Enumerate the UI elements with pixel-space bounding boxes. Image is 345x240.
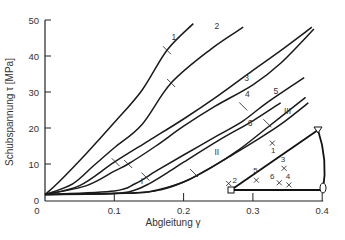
curve-label-4: 4 [245, 89, 250, 99]
inset-edge-arc [318, 130, 325, 190]
inset-marker-label: 3 [281, 155, 286, 164]
x-tick-label: 0 [34, 205, 39, 216]
x-tick-label: 0.2 [177, 205, 190, 216]
curve-II [45, 103, 308, 195]
curve-3 [45, 27, 312, 194]
x-tick-label: 0.4 [316, 205, 329, 216]
curve-2 [45, 27, 243, 194]
circle-marker-icon [320, 183, 326, 193]
cross-marker-icon [277, 180, 282, 185]
y-tick-label: 40 [28, 51, 39, 62]
x-axis-label: Abgleitung γ [145, 217, 200, 228]
x-tick-label: 0.1 [108, 205, 121, 216]
curves [45, 24, 314, 195]
curve-tick-mark [190, 169, 198, 177]
y-axis-label: Schubspannung τ [MPa] [4, 58, 15, 166]
stress-strain-chart: 0102030405000.10.20.30.4 123456IIIIII 12… [0, 0, 345, 240]
curve-label-5: 5 [273, 86, 278, 96]
inset-marker-label: 4 [286, 172, 291, 181]
curve-4 [45, 29, 314, 195]
curve-label-1: 1 [172, 32, 177, 42]
y-tick-label: 50 [28, 15, 39, 26]
curve-tick-mark [124, 160, 132, 168]
inset-triangle-diagram: 123456 [226, 127, 326, 193]
inset-marker-label: 6 [270, 172, 275, 181]
inset-marker-label: 1 [271, 146, 276, 155]
curve-label-III: III [284, 106, 291, 116]
inset-marker-label: 2 [232, 176, 237, 185]
curve-label-II: II [214, 147, 219, 157]
y-tick-label: 20 [28, 123, 39, 134]
cross-marker-icon [226, 181, 231, 186]
cross-marker-icon [286, 182, 291, 187]
x-tick-label: 0.3 [246, 205, 259, 216]
cross-marker-icon [254, 178, 259, 183]
curve-label-3: 3 [244, 73, 249, 83]
cross-marker-icon [270, 141, 275, 146]
curve-tick-mark [239, 102, 247, 110]
curve-label-2: 2 [214, 21, 219, 31]
inset-marker-label: 5 [253, 166, 258, 175]
y-tick-label: 10 [28, 159, 39, 170]
curve-tick-mark [263, 119, 271, 127]
square-marker-icon [228, 187, 234, 193]
curve-5 [45, 78, 304, 195]
cross-marker-icon [282, 166, 287, 171]
curve-label-6: 6 [248, 118, 253, 128]
y-tick-label: 30 [28, 87, 39, 98]
y-tick-label: 0 [34, 195, 39, 206]
curve-label-I: I [141, 176, 143, 186]
inset-edge-left [231, 130, 318, 190]
